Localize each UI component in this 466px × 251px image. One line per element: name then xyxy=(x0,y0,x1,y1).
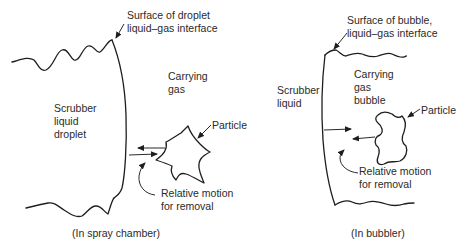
bubble-carrying-line3: bubble xyxy=(354,94,386,106)
bubble-carrying-line2: gas xyxy=(354,81,371,93)
caption-bubbler: (In bubbler) xyxy=(351,227,405,239)
bubble-bottom-surface xyxy=(335,201,414,206)
bubble-motion-line1: Relative motion xyxy=(359,165,432,177)
arrow-to-particle xyxy=(129,154,157,155)
scrubber-label-line1: Scrubber xyxy=(54,102,97,114)
particle-leader-left xyxy=(198,125,211,138)
surface-leader-bubble xyxy=(334,33,347,49)
scrubber-diagram: Surface of droplet liquid–gas interface … xyxy=(0,0,466,251)
carrying-gas-line1: Carrying xyxy=(168,70,208,82)
surface-leader xyxy=(116,24,124,38)
motion-arrow-right xyxy=(340,150,358,173)
surface-label-line2: liquid–gas interface xyxy=(127,22,218,34)
bubble-scrubber-line2: liquid xyxy=(277,97,302,109)
motion-label-line1: Relative motion xyxy=(161,187,234,199)
motion-arrow-left xyxy=(139,163,155,195)
carrying-gas-line2: gas xyxy=(168,83,185,95)
bubble-scrubber-line1: Scrubber xyxy=(277,84,320,96)
droplet-right-boundary xyxy=(112,40,126,198)
arrow-to-particle-right xyxy=(324,129,351,130)
bubble-motion-line2: for removal xyxy=(359,178,412,190)
particle-shape-right xyxy=(375,112,407,164)
scrubber-label-line2: liquid xyxy=(54,115,79,127)
spray-chamber-panel: Surface of droplet liquid–gas interface … xyxy=(12,9,247,239)
bubble-surface-label-line2: liquid–gas interface xyxy=(347,27,438,39)
particle-label-right: Particle xyxy=(421,104,456,116)
motion-label-line2: for removal xyxy=(161,200,214,212)
bubble-surface-label-line1: Surface of bubble, xyxy=(347,14,432,26)
bubbler-panel: Surface of bubble, liquid–gas interface … xyxy=(277,14,456,239)
droplet-top-surface xyxy=(12,40,112,70)
surface-label-line1: Surface of droplet xyxy=(127,9,210,21)
bubble-top-surface xyxy=(325,50,406,57)
droplet-bottom-surface xyxy=(26,198,114,217)
arrow-to-bubble-wall xyxy=(353,137,375,139)
particle-leader-right xyxy=(408,109,420,117)
bubble-carrying-line1: Carrying xyxy=(354,68,394,80)
caption-spray-chamber: (In spray chamber) xyxy=(72,227,160,239)
particle-label-left: Particle xyxy=(212,119,247,131)
scrubber-label-line3: droplet xyxy=(54,128,86,140)
